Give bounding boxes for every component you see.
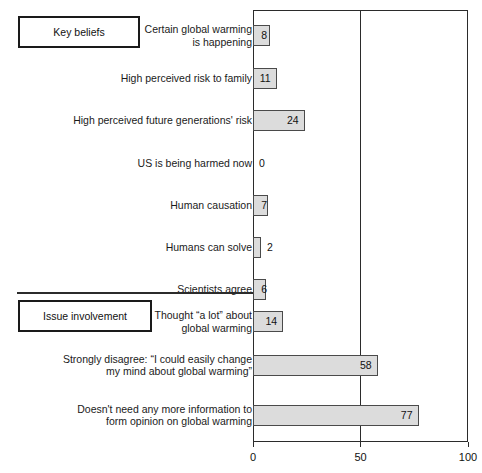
bar-row: US is being harmed now0: [0, 153, 482, 193]
category-label: Human causation: [12, 199, 252, 212]
bar-value-label: 6: [253, 279, 273, 300]
category-label: Strongly disagree: “I could easily chang…: [12, 353, 252, 378]
section-box-issue-involvement: Issue involvement: [18, 300, 152, 332]
section-box-key-beliefs-label: Key beliefs: [53, 26, 104, 38]
section-divider: [17, 292, 253, 294]
x-tick-label-100: 100: [448, 451, 482, 463]
bar-row: High perceived risk to family11: [0, 68, 482, 108]
category-label: High perceived future generations' risk: [12, 114, 252, 127]
x-tick-label-50: 50: [341, 451, 381, 463]
bar-value-label: 7: [253, 195, 273, 216]
category-label: US is being harmed now: [12, 157, 252, 170]
bar-value-label: 11: [253, 68, 277, 89]
bar-value-label: 8: [253, 25, 273, 46]
section-box-key-beliefs: Key beliefs: [18, 16, 140, 48]
x-tick-label-0: 0: [233, 451, 273, 463]
category-label: Doesn't need any more information to for…: [12, 403, 252, 428]
horizontal-bar-chart: 050100 Certain global warming is happeni…: [0, 0, 482, 473]
bar-value-label: 24: [253, 110, 305, 131]
bar-value-label: 2: [261, 237, 273, 258]
bar: [253, 237, 261, 258]
bar-row: High perceived future generations' risk2…: [0, 110, 482, 150]
bar-row: Human causation7: [0, 195, 482, 235]
bar-row: Strongly disagree: “I could easily chang…: [0, 355, 482, 395]
bar-value-label: 0: [253, 153, 265, 174]
bar-value-label: 14: [253, 311, 283, 332]
bar-row: Doesn't need any more information to for…: [0, 405, 482, 445]
bar-value-label: 77: [253, 405, 419, 426]
category-label: Humans can solve: [12, 241, 252, 254]
section-box-issue-involvement-label: Issue involvement: [43, 310, 127, 322]
bar-value-label: 58: [253, 355, 378, 376]
bar-row: Humans can solve2: [0, 237, 482, 277]
category-label: High perceived risk to family: [12, 72, 252, 85]
